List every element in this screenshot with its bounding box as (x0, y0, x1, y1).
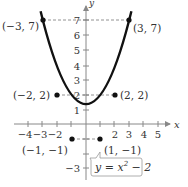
x-tick-label: −2 (48, 129, 63, 140)
point-label: (−3, 7) (2, 20, 39, 32)
x-tick-label: −3 (33, 129, 48, 140)
y-tick-label: 1 (74, 105, 80, 116)
x-tick-label: 2 (112, 129, 118, 140)
x-tick-label: −4 (18, 129, 33, 140)
point-2-2 (112, 92, 117, 97)
x-tick-label: 5 (155, 129, 161, 140)
x-tick-labels: −4 −3 −2 2 3 4 5 (18, 129, 162, 140)
y-tick-label: 6 (74, 30, 80, 41)
point-label: (3, 7) (133, 22, 161, 34)
point-m3-7 (40, 17, 45, 22)
point-1-m1 (97, 136, 102, 141)
x-axis-label: x (174, 119, 180, 130)
y-axis-label: y (88, 0, 95, 8)
y-tick-label: 7 (74, 15, 80, 26)
point-m1-m1 (69, 136, 74, 141)
parabola-chart: x y −4 −3 −2 2 3 4 5 7 6 5 4 (0, 0, 188, 187)
point-label: (1, −1) (104, 144, 141, 156)
x-tick-label: 4 (141, 129, 147, 140)
point-m2-2 (54, 92, 59, 97)
point-label: (−1, −1) (22, 144, 68, 156)
point-3-7 (126, 17, 131, 22)
point-label: (2, 2) (120, 89, 148, 101)
x-tick-label: 3 (126, 129, 132, 140)
y-tick-label: 4 (74, 61, 80, 72)
y-tick-label: −3 (65, 163, 80, 174)
y-tick-label: 3 (74, 75, 80, 86)
equation-label: y = x2 − 2 (94, 160, 151, 174)
point-label: (−2, 2) (13, 89, 50, 101)
y-tick-label: 5 (74, 45, 80, 56)
